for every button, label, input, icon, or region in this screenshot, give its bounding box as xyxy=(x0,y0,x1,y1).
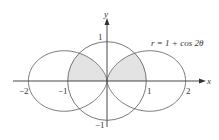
x-tick-label-neg1: −1 xyxy=(58,86,68,96)
x-axis-arrow-icon xyxy=(199,79,206,84)
y-tick-label-neg1: −1 xyxy=(95,120,105,130)
x-tick-label-2: 2 xyxy=(186,86,191,96)
x-axis-label: x xyxy=(206,76,211,86)
x-tick-label-1: 1 xyxy=(147,86,152,96)
y-axis-label: y xyxy=(103,9,108,19)
polar-diagram: y x −2 −1 1 2 1 −1 r = 1 + cos 2θ xyxy=(0,0,219,140)
y-axis-arrow-icon xyxy=(105,18,110,25)
x-tick-label-neg2: −2 xyxy=(19,86,29,96)
y-tick-label-1: 1 xyxy=(98,32,103,42)
equation-label: r = 1 + cos 2θ xyxy=(151,38,204,48)
